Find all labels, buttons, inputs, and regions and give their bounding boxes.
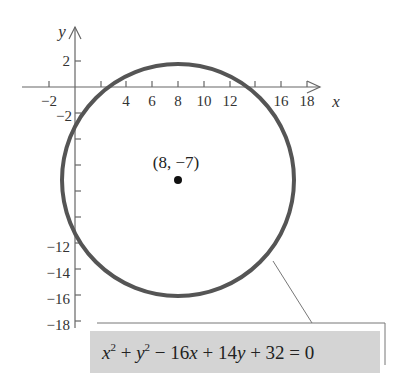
y-axis-label: y xyxy=(56,22,66,41)
y-tick-label: −16 xyxy=(47,291,71,307)
x-axis-ticks xyxy=(49,81,307,87)
x-tick-label: 4 xyxy=(122,93,130,109)
y-tick-label: 2 xyxy=(63,53,71,69)
equation-label: x2 + y2 − 16x + 14y + 32 = 0 xyxy=(90,331,380,373)
x-tick-label: 8 xyxy=(174,93,182,109)
center-point xyxy=(174,176,182,184)
x-tick-label: 18 xyxy=(300,93,315,109)
x-axis-label: x xyxy=(331,92,340,111)
y-tick-label: −2 xyxy=(56,108,72,124)
y-tick-label: −18 xyxy=(47,317,70,333)
x-tick-label: 10 xyxy=(197,93,212,109)
x-tick-label: 12 xyxy=(223,93,238,109)
x-tick-label: −2 xyxy=(41,93,57,109)
y-tick-label: −14 xyxy=(47,265,71,281)
center-label: (8, −7) xyxy=(153,153,199,172)
y-tick-label: −12 xyxy=(47,239,70,255)
y-axis-ticks xyxy=(75,61,81,321)
leader-line xyxy=(273,261,312,323)
x-tick-label: 16 xyxy=(274,93,290,109)
circle-diagram: −2 4 6 8 10 12 16 18 x y 2 −2 −12 −14 −1… xyxy=(0,0,412,386)
x-tick-label: 6 xyxy=(148,93,156,109)
